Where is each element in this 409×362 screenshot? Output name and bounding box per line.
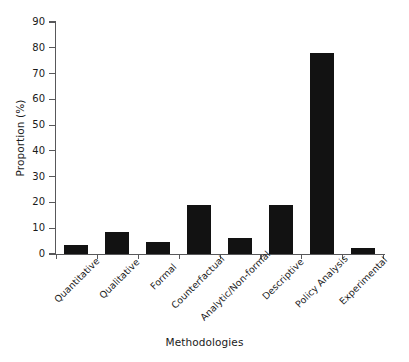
x-category-label: Qualitative: [97, 257, 141, 301]
x-tick-mark: [138, 254, 139, 259]
bar: [105, 232, 129, 254]
y-tick-label: 90: [32, 17, 45, 27]
x-category-label: Quantitative: [52, 255, 101, 304]
y-tick-label: 20: [32, 197, 45, 207]
bar: [351, 248, 375, 254]
y-tick-mark: [49, 73, 56, 74]
y-tick-mark: [49, 21, 56, 22]
y-tick-label: 40: [32, 146, 45, 156]
y-tick-mark: [49, 150, 56, 151]
x-tick-mark: [56, 254, 57, 259]
y-tick-mark: [49, 202, 56, 203]
y-tick-label: 60: [32, 94, 45, 104]
y-tick-label: 0: [39, 249, 45, 259]
bar-chart: Proportion (%) 0102030405060708090 Quant…: [0, 0, 409, 362]
x-axis-title: Methodologies: [0, 336, 409, 348]
bar: [64, 245, 88, 254]
bar: [187, 205, 211, 254]
y-tick-mark: [49, 47, 56, 48]
y-tick-mark: [49, 99, 56, 100]
y-tick-label: 70: [32, 69, 45, 79]
x-category-label: Analytic/Non-formal: [198, 248, 272, 322]
bar: [146, 242, 170, 254]
y-tick-label: 30: [32, 172, 45, 182]
y-tick-label: 80: [32, 43, 45, 53]
y-tick-label: 50: [32, 120, 45, 130]
bar: [310, 53, 334, 254]
bar: [269, 205, 293, 254]
y-tick-mark: [49, 176, 56, 177]
y-tick-label: 10: [32, 223, 45, 233]
y-tick-mark: [49, 125, 56, 126]
bar: [228, 238, 252, 254]
x-category-label: Formal: [148, 261, 179, 292]
y-tick-mark: [49, 253, 56, 254]
y-tick-mark: [49, 228, 56, 229]
x-tick-mark: [179, 254, 180, 259]
y-axis-title: Proportion (%): [14, 22, 30, 254]
plot-area: [56, 22, 383, 254]
